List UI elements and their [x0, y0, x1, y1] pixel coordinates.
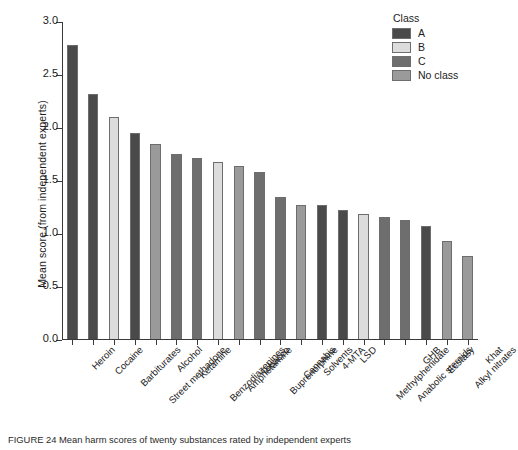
legend-swatch: [392, 56, 411, 67]
y-tick-label: 3.0: [43, 14, 58, 26]
y-tick-label: 0.5: [43, 279, 58, 291]
legend-item[interactable]: C: [392, 55, 492, 67]
bar[interactable]: [88, 94, 98, 339]
x-axis-labels: HeroinCocaineBarbituratesStreet methadon…: [62, 344, 482, 424]
y-axis-title: Mean score (from independent experts): [36, 74, 48, 314]
legend: Class ABCNo class: [392, 12, 492, 83]
bar[interactable]: [192, 158, 202, 339]
bar[interactable]: [400, 220, 410, 339]
legend-label: A: [418, 27, 425, 39]
bar[interactable]: [213, 162, 223, 339]
figure-caption: FIGURE 24 Mean harm scores of twenty sub…: [8, 434, 488, 445]
legend-item[interactable]: B: [392, 41, 492, 53]
bar[interactable]: [254, 172, 264, 339]
legend-item[interactable]: A: [392, 27, 492, 39]
legend-title: Class: [392, 12, 492, 24]
legend-label: C: [418, 55, 426, 67]
legend-label: B: [418, 41, 425, 53]
bar[interactable]: [442, 241, 452, 339]
legend-swatch: [392, 70, 411, 81]
legend-swatch: [392, 42, 411, 53]
legend-items: ABCNo class: [392, 27, 492, 81]
y-tick-label: 0.0: [43, 332, 58, 344]
bar[interactable]: [462, 256, 472, 339]
bar[interactable]: [234, 166, 244, 339]
legend-label: No class: [418, 69, 458, 81]
y-tick-label: 1.0: [43, 226, 58, 238]
x-tick-label: Cocaine: [112, 344, 145, 377]
bar[interactable]: [150, 144, 160, 339]
bar[interactable]: [317, 205, 327, 339]
bar[interactable]: [421, 226, 431, 339]
bar[interactable]: [338, 210, 348, 339]
y-tick-label: 1.5: [43, 173, 58, 185]
legend-item[interactable]: No class: [392, 69, 492, 81]
legend-swatch: [392, 28, 411, 39]
bar[interactable]: [275, 197, 285, 339]
bar[interactable]: [296, 205, 306, 339]
bar[interactable]: [130, 133, 140, 339]
bar[interactable]: [67, 45, 77, 339]
y-tick-label: 2.5: [43, 67, 58, 79]
bar[interactable]: [379, 217, 389, 339]
y-tick-label: 2.0: [43, 120, 58, 132]
bar[interactable]: [171, 154, 181, 340]
bar[interactable]: [109, 117, 119, 339]
bar[interactable]: [358, 214, 368, 339]
